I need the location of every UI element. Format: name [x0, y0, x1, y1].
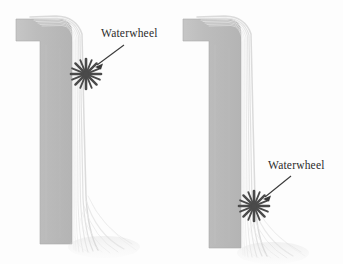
waterwheel-icon — [239, 191, 269, 221]
waterwheel-figure: Waterwheel Waterwheel — [0, 0, 343, 264]
label-arrow — [95, 45, 124, 70]
waterwheel-label-left: Waterwheel — [101, 28, 158, 40]
splash-outwash — [68, 196, 140, 258]
label-arrow — [263, 176, 291, 202]
dam-wall — [16, 19, 72, 244]
panel-waterwheel-low — [171, 0, 342, 264]
panel-waterwheel-high — [0, 0, 171, 264]
waterwheel-icon — [71, 59, 101, 89]
dam-wall — [183, 19, 241, 248]
waterwheel-label-right: Waterwheel — [268, 160, 325, 172]
